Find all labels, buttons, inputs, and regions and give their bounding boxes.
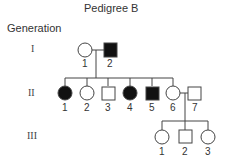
individual-II-3 — [102, 87, 115, 100]
individual-II-6 — [166, 86, 180, 100]
svg-text:2: 2 — [182, 146, 188, 157]
individual-II-7 — [188, 87, 201, 100]
svg-text:2: 2 — [84, 102, 90, 113]
svg-text:3: 3 — [205, 146, 211, 157]
svg-text:6: 6 — [170, 102, 176, 113]
svg-text:1: 1 — [159, 146, 165, 157]
svg-text:2: 2 — [107, 58, 113, 69]
individual-II-1 — [58, 86, 72, 100]
svg-text:3: 3 — [105, 102, 111, 113]
svg-text:1: 1 — [62, 102, 68, 113]
svg-text:1: 1 — [82, 58, 88, 69]
individual-III-3 — [201, 130, 215, 144]
pedigree-lines: 1 2 1 2 3 4 5 6 7 1 2 3 — [0, 0, 225, 165]
svg-text:7: 7 — [192, 102, 198, 113]
individual-III-2 — [179, 130, 192, 143]
individual-I-1 — [78, 43, 92, 57]
svg-text:4: 4 — [127, 102, 133, 113]
individual-II-4 — [123, 86, 137, 100]
individual-I-2 — [104, 43, 117, 57]
pedigree-diagram: Pedigree B Generation I II III — [0, 0, 225, 165]
individual-II-5 — [146, 87, 159, 100]
individual-II-2 — [80, 86, 94, 100]
svg-text:5: 5 — [149, 102, 155, 113]
individual-III-1 — [155, 130, 169, 144]
